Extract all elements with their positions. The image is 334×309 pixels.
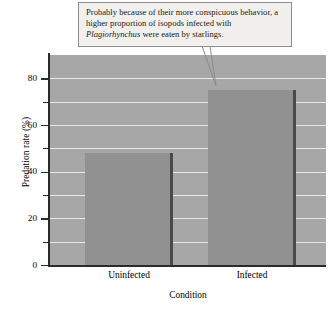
bar-infected-shadow (293, 90, 296, 265)
y-tick-60 (41, 125, 49, 126)
annotation-line-3-prefix: with (216, 18, 231, 28)
y-tick-40 (41, 172, 49, 173)
y-tick-minor-50 (43, 148, 49, 149)
y-tick-0 (41, 265, 49, 266)
y-tick-minor-30 (43, 195, 49, 196)
x-tick-label-infected: Infected (172, 270, 332, 280)
annotation-line-1: Probably because of their more conspicuo… (86, 7, 238, 17)
plot-area (50, 55, 326, 265)
annotation-line-3-suffix: were eaten by starlings. (140, 29, 223, 39)
y-tick-minor-10 (43, 242, 49, 243)
gridline-80 (50, 78, 326, 79)
bar-uninfected-shadow (170, 153, 173, 265)
y-tick-label-80: 80 (7, 74, 37, 83)
y-tick-20 (41, 218, 49, 219)
x-axis-title: Condition (50, 290, 326, 300)
bar-chart-figure: Probably because of their more conspicuo… (0, 0, 334, 309)
bar-uninfected[interactable] (85, 153, 173, 265)
bar-infected[interactable] (208, 90, 296, 265)
y-axis-title: Predation rate (%) (21, 72, 31, 232)
y-tick-label-20: 20 (7, 214, 37, 223)
y-tick-label-0: 0 (7, 261, 37, 270)
y-axis-line (48, 53, 50, 266)
y-tick-label-40: 40 (7, 167, 37, 176)
annotation-species-name: Plagiorhynchus (86, 29, 140, 39)
annotation-leader-line (196, 46, 224, 88)
x-axis-line (48, 265, 326, 267)
y-tick-minor-70 (43, 102, 49, 103)
y-tick-label-60: 60 (7, 121, 37, 130)
annotation-callout: Probably because of their more conspicuo… (78, 2, 292, 47)
y-tick-80 (41, 78, 49, 79)
